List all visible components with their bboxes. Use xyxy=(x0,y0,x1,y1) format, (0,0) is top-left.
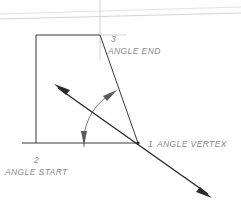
diagram-labels: 1 ANGLE VERTEX 2 ANGLE START 3 ANGLE END xyxy=(4,34,227,177)
arc-arrowhead-end xyxy=(103,90,117,101)
ray-arrowhead-lower-right xyxy=(196,187,212,198)
scan-artifact-lines xyxy=(0,7,241,19)
ray-arrowhead-upper-left xyxy=(54,84,70,95)
vertex-name-label: ANGLE VERTEX xyxy=(156,139,227,149)
scan-line-upper xyxy=(0,7,241,14)
start-number-label: 2 xyxy=(33,155,39,165)
cad-drawing-canvas: 1 ANGLE VERTEX 2 ANGLE START 3 ANGLE END xyxy=(0,0,241,208)
angle-diagram-svg: 1 ANGLE VERTEX 2 ANGLE START 3 ANGLE END xyxy=(0,0,241,208)
end-number-label: 3 xyxy=(111,34,116,44)
scan-line-lower xyxy=(0,13,241,19)
arc-arrowhead-start xyxy=(81,131,87,146)
end-name-label: ANGLE END xyxy=(107,46,161,56)
vertex-number-label: 1 xyxy=(148,139,153,149)
angle-sweep-arc xyxy=(81,90,117,147)
point-markers xyxy=(136,141,139,144)
vertex-point-marker xyxy=(136,141,139,144)
start-name-label: ANGLE START xyxy=(4,167,68,177)
